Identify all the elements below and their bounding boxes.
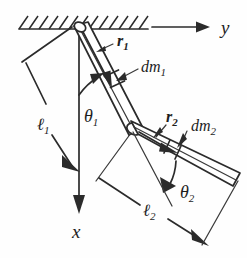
l2-dim-left-segment [99,178,140,205]
x-axis-arrowhead [73,195,85,214]
l2-label: ℓ2 [143,201,156,222]
y-axis-arrowhead [196,22,210,33]
r1-label: r1 [117,32,129,52]
link-2-group [131,121,240,186]
theta2-group: θ2 [160,161,195,204]
l1-dimension-group: ℓ1 [22,27,80,172]
dm2-label-group: dm2 [177,117,217,148]
r1-label-group: r1 [96,32,129,52]
theta1-group: θ1 [79,73,104,128]
y-axis-label: y [219,17,230,38]
dm1-label-group: dm1 [116,58,166,81]
r2-label: r2 [166,108,178,128]
theta2-label: θ2 [180,182,195,204]
l2-extension-right [202,181,238,245]
x-axis-label: x [71,221,81,242]
r2-label-group: r2 [153,108,178,138]
l1-dim-upper-segment [26,63,46,104]
diagram-canvas: y x [0,0,247,258]
l1-label: ℓ1 [37,115,50,136]
l1-extension-upper [22,27,72,62]
pendulum-figure: y x [0,0,247,258]
dm1-leader-arrowhead [116,72,127,81]
theta1-label: θ1 [84,106,98,128]
x-axis-group: x [71,29,85,242]
l1-arrowhead [62,155,80,172]
theta2-arc [170,161,176,184]
y-axis-group: y [152,17,230,38]
theta2-arrowhead [160,177,176,193]
l2-extension-left [96,133,131,181]
dm2-label: dm2 [191,117,217,137]
dm1-label: dm1 [141,58,166,78]
